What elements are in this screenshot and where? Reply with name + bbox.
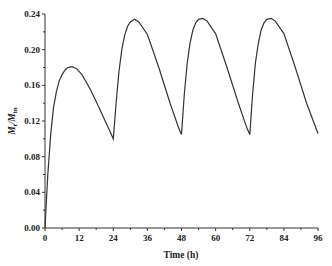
y-tick-label: 0.08 xyxy=(24,152,40,162)
x-tick-label: 36 xyxy=(143,233,153,243)
y-tick-label: 0.04 xyxy=(24,187,40,197)
x-tick-label: 96 xyxy=(314,233,324,243)
chart: 012243648607284960.000.040.080.120.160.2… xyxy=(0,0,332,266)
x-tick-label: 72 xyxy=(245,233,255,243)
y-tick-label: 0.24 xyxy=(24,9,40,19)
axes: 012243648607284960.000.040.080.120.160.2… xyxy=(24,9,323,243)
series-line xyxy=(45,19,318,229)
y-axis-label: Mt/Min xyxy=(7,107,19,135)
x-tick-label: 84 xyxy=(279,233,289,243)
y-tick-label: 0.20 xyxy=(24,45,40,55)
x-tick-label: 60 xyxy=(211,233,221,243)
x-axis-label: Time (h) xyxy=(164,250,199,261)
y-tick-label: 0.16 xyxy=(24,80,40,90)
x-tick-label: 24 xyxy=(109,233,119,243)
x-tick-label: 0 xyxy=(43,233,48,243)
y-tick-label: 0.00 xyxy=(24,223,40,233)
x-tick-label: 48 xyxy=(177,233,187,243)
y-tick-label: 0.12 xyxy=(24,116,40,126)
x-tick-label: 12 xyxy=(75,233,85,243)
